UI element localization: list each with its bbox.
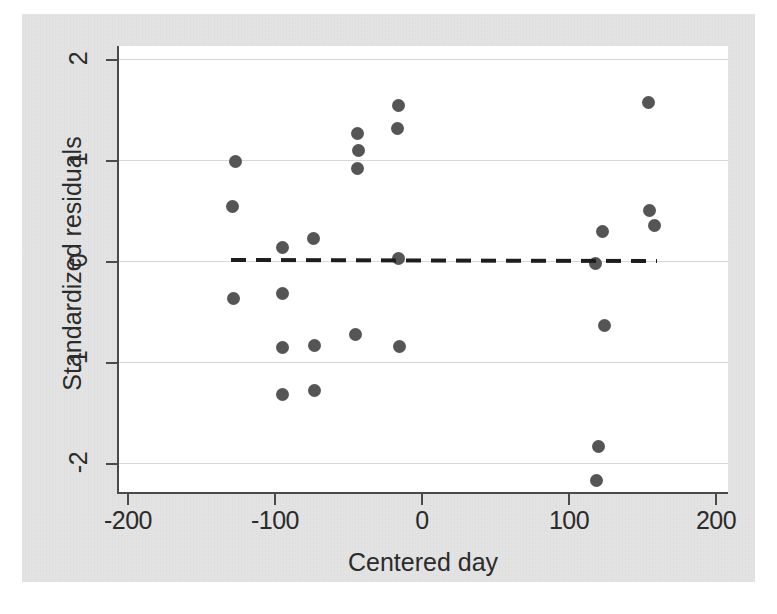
scatter-point — [227, 292, 240, 305]
scatter-point — [276, 388, 289, 401]
x-tick-0 — [421, 494, 423, 505]
x-tick-label-200: 200 — [661, 506, 771, 535]
gridline-y-1 — [118, 160, 728, 161]
residual-plot-figure: -2-1012 -200-1000100200 Centered day Sta… — [0, 0, 777, 614]
scatter-point — [276, 341, 289, 354]
x-axis-label: Centered day — [118, 548, 728, 577]
scatter-point — [276, 241, 289, 254]
y-tick-0 — [106, 261, 118, 263]
scatter-point — [598, 319, 611, 332]
x-tick-200 — [715, 494, 717, 505]
y-tick-2 — [106, 59, 118, 61]
x-tick-label--200: -200 — [73, 506, 183, 535]
x-tick-label-100: 100 — [514, 506, 624, 535]
scatter-point — [229, 155, 242, 168]
scatter-point — [351, 162, 364, 175]
scatter-point — [392, 99, 405, 112]
gridline-y--1 — [118, 362, 728, 363]
gridline-y--2 — [118, 463, 728, 464]
x-tick--200 — [127, 494, 129, 505]
y-axis-label: Standardized residuals — [58, 39, 87, 489]
x-tick-label-0: 0 — [367, 506, 477, 535]
scatter-point — [391, 122, 404, 135]
scatter-point — [642, 96, 655, 109]
x-tick-100 — [568, 494, 570, 505]
y-tick-1 — [106, 160, 118, 162]
scatter-point — [643, 204, 656, 217]
scatter-point — [648, 219, 661, 232]
x-tick--100 — [274, 494, 276, 505]
scatter-point — [226, 200, 239, 213]
gridline-y-2 — [118, 59, 728, 60]
scatter-point — [276, 287, 289, 300]
scatter-point — [307, 232, 320, 245]
y-tick--2 — [106, 463, 118, 465]
scatter-point — [592, 440, 605, 453]
x-tick-label--100: -100 — [220, 506, 330, 535]
trend-line — [231, 258, 657, 263]
y-axis-line — [117, 46, 119, 494]
y-tick--1 — [106, 362, 118, 364]
scatter-point — [351, 127, 364, 140]
plot-panel — [118, 46, 728, 493]
